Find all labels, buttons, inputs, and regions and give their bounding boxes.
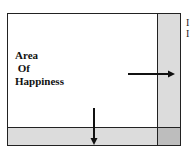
arrows-layer (0, 0, 191, 153)
arrow-down-icon (91, 108, 98, 145)
arrow-right-icon (128, 71, 175, 78)
